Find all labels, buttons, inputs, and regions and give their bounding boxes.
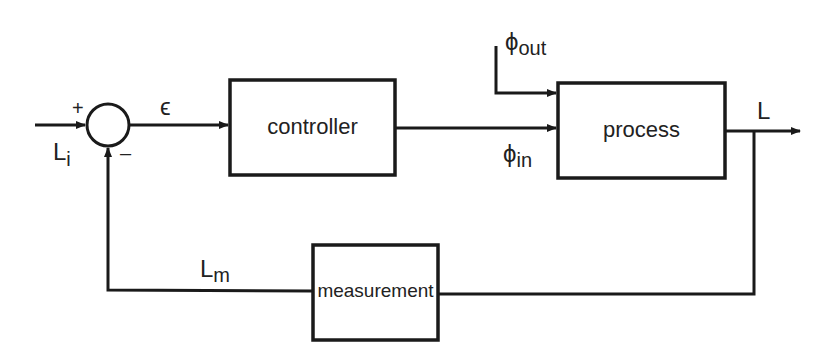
output-signal-label: L xyxy=(757,97,770,125)
process-label: process xyxy=(558,117,725,143)
phi-in-label: ϕin xyxy=(503,140,532,168)
controller-label: controller xyxy=(230,114,395,140)
error-signal-label: ϵ xyxy=(160,93,171,121)
phi-out-label: ϕout xyxy=(505,28,546,56)
diagram-lines xyxy=(0,0,840,364)
measured-signal-label: Lm xyxy=(200,255,230,283)
input-signal-label: Li xyxy=(53,138,71,166)
measurement-label: measurement xyxy=(313,280,438,302)
minus-sign: – xyxy=(120,142,131,165)
block-diagram: controller process measurement + – Li ϵ … xyxy=(0,0,840,364)
summing-junction xyxy=(87,104,129,146)
plus-sign: + xyxy=(72,97,84,120)
feedback-line-right xyxy=(438,131,754,294)
